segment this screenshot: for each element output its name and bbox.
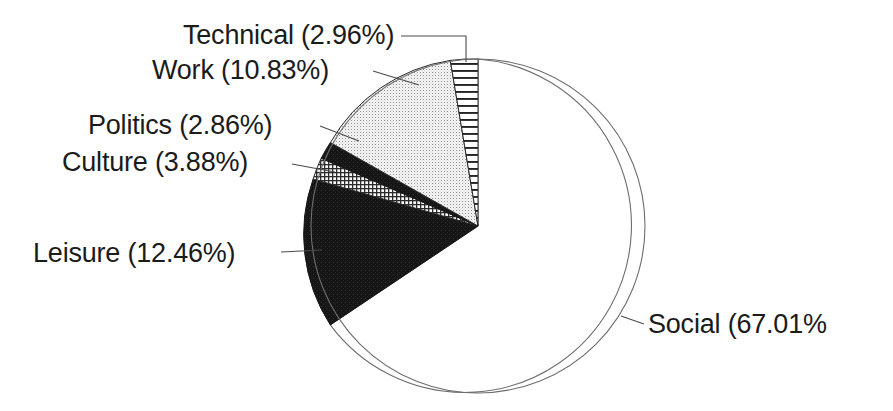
pie-label-technical: Technical (2.96%) xyxy=(183,22,394,49)
pie-chart-canvas xyxy=(0,0,893,411)
pie-label-leisure: Leisure (12.46%) xyxy=(33,240,235,267)
leader-line-technical xyxy=(401,36,466,62)
pie-label-work: Work (10.83%) xyxy=(152,57,329,84)
leader-line-social xyxy=(621,316,644,324)
pie-label-social: Social (67.01% xyxy=(648,311,827,338)
pie-chart: Technical (2.96%) Work (10.83%) Politics… xyxy=(0,0,893,411)
pie-label-culture: Culture (3.88%) xyxy=(62,149,248,176)
pie-label-politics: Politics (2.86%) xyxy=(88,112,272,139)
